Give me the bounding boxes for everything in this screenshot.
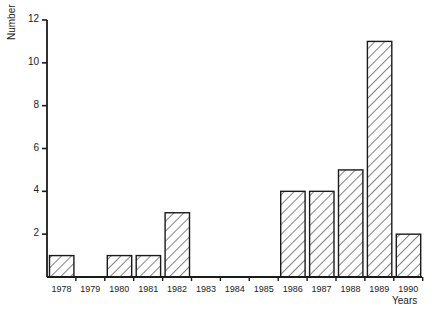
- bars-group: [50, 41, 421, 277]
- x-tick-label: 1985: [250, 284, 278, 294]
- y-tick-label: 10: [19, 56, 39, 67]
- x-tick-label: 1980: [105, 284, 133, 294]
- bar-1982: [165, 213, 189, 277]
- x-tick-label: 1982: [163, 284, 191, 294]
- x-tick-label: 1983: [192, 284, 220, 294]
- y-tick-label: 4: [19, 184, 39, 195]
- x-tick-label: 1984: [221, 284, 249, 294]
- x-tick-label: 1988: [336, 284, 364, 294]
- x-tick-label: 1990: [394, 284, 422, 294]
- x-tick-label: 1989: [365, 284, 393, 294]
- x-axis-label: Years: [392, 295, 417, 306]
- bar-1978: [50, 256, 74, 277]
- bar-1981: [136, 256, 160, 277]
- bar-1987: [310, 191, 334, 277]
- x-tick-label: 1981: [134, 284, 162, 294]
- bar-1980: [107, 256, 131, 277]
- y-tick-label: 12: [19, 13, 39, 24]
- x-tick-label: 1986: [279, 284, 307, 294]
- y-tick-label: 2: [19, 227, 39, 238]
- y-tick-label: 8: [19, 99, 39, 110]
- bar-1989: [367, 41, 391, 277]
- bar-1986: [281, 191, 305, 277]
- x-tick-label: 1987: [308, 284, 336, 294]
- bar-1990: [396, 234, 420, 277]
- x-tick-label: 1979: [76, 284, 104, 294]
- bar-1988: [339, 170, 363, 277]
- y-tick-label: 6: [19, 142, 39, 153]
- chart-canvas: [0, 0, 436, 318]
- x-tick-label: 1978: [47, 284, 75, 294]
- y-axis-label: Number: [6, 4, 17, 40]
